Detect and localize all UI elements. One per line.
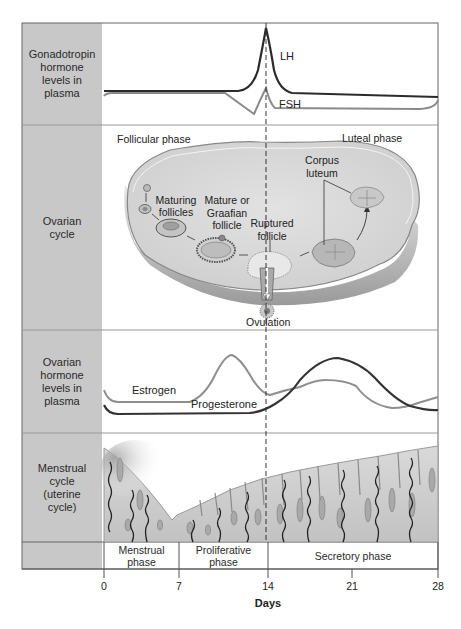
tick-label-28: 28 <box>432 580 444 592</box>
follicular-phase-label: Follicular phase <box>117 133 191 145</box>
tick-label-0: 0 <box>101 580 107 592</box>
shedding-tissue <box>100 440 170 500</box>
oocyte <box>143 207 148 211</box>
primordial-follicle <box>144 185 151 192</box>
row-label-ovarian-hormone: Ovarian hormone levels in plasma <box>22 330 102 433</box>
fsh-label: FSH <box>279 98 301 110</box>
corpus-luteum-label: Corpus luteum <box>302 154 342 179</box>
follicle-antrum <box>163 222 179 230</box>
phase-menstrual: Menstrual phase <box>104 542 179 569</box>
luteal-phase-label: Luteal phase <box>342 132 402 144</box>
graafian-follicle-label: Mature or Graafian follicle <box>202 194 252 232</box>
ovulation-label: Ovulation <box>246 316 290 328</box>
x-axis-title: Days <box>255 597 281 609</box>
phase-proliferative: Proliferative phase <box>179 542 268 569</box>
tick-label-7: 7 <box>176 580 182 592</box>
oocyte-nucleus <box>264 308 270 314</box>
maturing-follicles-label: Maturing follicles <box>154 194 198 218</box>
lh-label: LH <box>280 50 294 62</box>
corpus-luteum-forming <box>312 239 355 267</box>
lh-curve <box>104 28 438 97</box>
row-label-ovarian-cycle: Ovarian cycle <box>22 125 102 330</box>
ruptured-follicle-label: Ruptured follicle <box>248 217 296 242</box>
phase-secretory: Secretory phase <box>268 542 438 569</box>
tick-label-14: 14 <box>262 580 274 592</box>
gonadotropin-chart <box>104 28 438 114</box>
progesterone-label: Progesterone <box>191 398 257 410</box>
row-label-gonadotropin: Gonadotropin hormone levels in plasma <box>22 23 102 125</box>
graafian-antrum <box>201 242 231 258</box>
menstrual-cycle-figure: Gonadotropin hormone levels in plasma Ov… <box>0 0 461 629</box>
endometrium-illustration <box>100 440 438 542</box>
estrogen-curve <box>104 355 438 408</box>
graafian-oocyte <box>219 235 225 241</box>
row-label-menstrual-cycle: Menstrual cycle (uterine cycle) <box>22 433 102 542</box>
tick-label-21: 21 <box>346 580 358 592</box>
estrogen-label: Estrogen <box>132 384 176 396</box>
